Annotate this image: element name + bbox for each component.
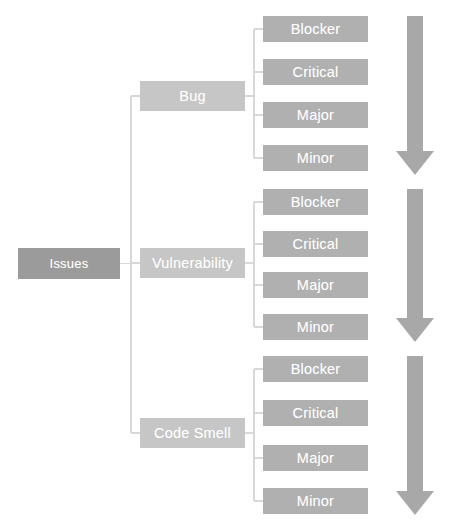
- category-node-vulnerability-label: Vulnerability: [152, 255, 233, 271]
- severity-node-major-label: Major: [297, 107, 334, 123]
- severity-node-minor-label: Minor: [297, 150, 334, 166]
- severity-node-minor[interactable]: Minor: [263, 488, 368, 514]
- severity-node-blocker[interactable]: Blocker: [263, 16, 368, 42]
- severity-node-minor-label: Minor: [297, 319, 334, 335]
- severity-node-critical[interactable]: Critical: [263, 231, 368, 257]
- severity-node-major-label: Major: [297, 450, 334, 466]
- category-node-code-smell-label: Code Smell: [154, 425, 231, 441]
- severity-node-major[interactable]: Major: [263, 272, 368, 298]
- severity-node-major-label: Major: [297, 277, 334, 293]
- severity-node-blocker[interactable]: Blocker: [263, 189, 368, 215]
- diagram-canvas: IssuesBugBlockerCriticalMajorMinorVulner…: [0, 0, 451, 523]
- severity-node-critical-label: Critical: [293, 64, 339, 80]
- severity-node-blocker-label: Blocker: [291, 361, 341, 377]
- severity-node-minor-label: Minor: [297, 493, 334, 509]
- severity-node-blocker[interactable]: Blocker: [263, 356, 368, 382]
- root-node-issues[interactable]: Issues: [18, 248, 120, 279]
- severity-node-critical-label: Critical: [293, 405, 339, 421]
- category-node-vulnerability[interactable]: Vulnerability: [140, 248, 245, 278]
- severity-node-major[interactable]: Major: [263, 102, 368, 128]
- severity-node-blocker-label: Blocker: [291, 194, 341, 210]
- severity-node-minor[interactable]: Minor: [263, 314, 368, 340]
- severity-node-blocker-label: Blocker: [291, 21, 341, 37]
- severity-node-minor[interactable]: Minor: [263, 145, 368, 171]
- severity-node-critical[interactable]: Critical: [263, 400, 368, 426]
- severity-node-critical[interactable]: Critical: [263, 59, 368, 85]
- severity-node-critical-label: Critical: [293, 236, 339, 252]
- category-node-code-smell[interactable]: Code Smell: [140, 418, 245, 448]
- category-node-bug[interactable]: Bug: [140, 81, 245, 111]
- severity-node-major[interactable]: Major: [263, 445, 368, 471]
- node-layer: IssuesBugBlockerCriticalMajorMinorVulner…: [0, 0, 451, 523]
- category-node-bug-label: Bug: [179, 88, 205, 104]
- root-node-issues-label: Issues: [50, 256, 89, 271]
